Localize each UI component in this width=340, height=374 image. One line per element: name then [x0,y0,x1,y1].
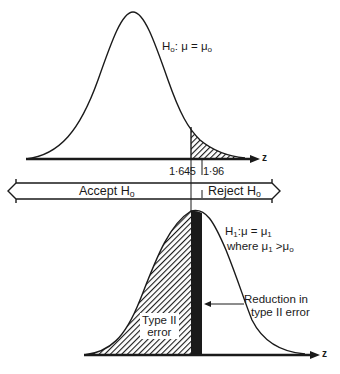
reduction-region [189,211,204,355]
reject-region-label: Reject Ho [208,185,261,199]
h0-distribution [26,12,260,163]
lower-axis-arrowhead-icon [310,351,320,359]
upper-axis-arrowhead-icon [250,155,260,163]
h0-rejection-tail [26,12,245,159]
type2-error-label: Type II error [140,313,179,339]
upper-axis-label: z [262,153,267,163]
tick-label-1645: 1·645 [169,166,196,177]
h1-distribution [84,210,320,359]
lower-axis-label: z [322,349,327,359]
h1-where-label: where μ1 >μo [227,241,294,254]
h0-label: Ho: μ = μo [162,41,212,54]
pointer-arrowhead-icon [204,301,211,307]
accept-region-label: Accept Ho [79,185,135,199]
reduction-label: Reduction in type II error [244,293,310,319]
h0-curve [26,12,245,159]
h1-label: H1:μ = μ1 [225,226,272,239]
tick-label-196: 1·96 [203,166,224,177]
reduction-pointer [204,301,244,307]
